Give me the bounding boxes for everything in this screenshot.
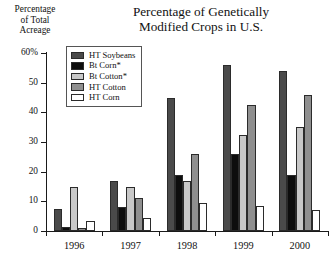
bar <box>143 218 151 231</box>
bar <box>279 71 287 231</box>
bar <box>247 105 255 231</box>
x-axis-tick <box>215 232 216 236</box>
legend-label: HT Soybeans <box>89 51 135 60</box>
legend-swatch-icon <box>71 94 84 102</box>
y-axis-tick-label: 10 <box>29 196 38 205</box>
bar <box>54 209 62 231</box>
legend-item: Bt Cotton* <box>71 71 135 82</box>
x-axis-label-1996: 1996 <box>47 240 101 251</box>
x-axis-tick <box>102 232 103 236</box>
legend-item: HT Cotton <box>71 82 135 93</box>
bar <box>191 154 199 231</box>
x-axis-line <box>46 231 329 232</box>
bar <box>183 181 191 231</box>
legend-item: Bt Corn* <box>71 61 135 72</box>
legend-item: HT Corn <box>71 92 135 103</box>
chart-legend: HT SoybeansBt Corn*Bt Cotton*HT CottonHT… <box>66 46 142 107</box>
x-axis-tick <box>328 232 329 236</box>
chart-title: Percentage of Genetically Modified Crops… <box>86 4 316 34</box>
legend-swatch-icon <box>71 83 84 91</box>
bar <box>126 187 134 232</box>
y-axis-title: Percentage of Total Acreage <box>2 4 68 36</box>
bar <box>110 181 118 231</box>
bar <box>287 175 295 231</box>
bar <box>70 187 78 232</box>
x-axis-tick <box>159 232 160 236</box>
bar <box>118 207 126 231</box>
x-axis-label-1997: 1997 <box>104 240 158 251</box>
y-axis-tick-label: 40 <box>29 107 38 116</box>
y-axis-tick-label: 60% <box>21 48 38 57</box>
bar <box>239 135 247 231</box>
bar <box>62 227 70 231</box>
legend-swatch-icon <box>71 62 84 70</box>
x-axis-label-2000: 2000 <box>273 240 327 251</box>
legend-item: HT Soybeans <box>71 50 135 61</box>
x-axis-tick <box>46 232 47 236</box>
bar <box>256 206 264 231</box>
bar <box>304 95 312 231</box>
bar <box>231 154 239 231</box>
x-axis-label-1999: 1999 <box>216 240 270 251</box>
bar <box>199 203 207 231</box>
bar <box>312 210 320 231</box>
bar <box>296 127 304 231</box>
y-axis-tick-label: 20 <box>29 167 38 176</box>
legend-label: HT Corn <box>89 93 120 102</box>
bar <box>175 175 183 231</box>
bar <box>167 98 175 232</box>
legend-label: Bt Corn* <box>89 61 121 70</box>
bar <box>223 65 231 231</box>
x-axis-label-1998: 1998 <box>160 240 214 251</box>
y-axis-tick-label: 30 <box>29 137 38 146</box>
bar-group-1999 <box>223 53 264 231</box>
legend-swatch-icon <box>71 73 84 81</box>
bar <box>135 198 143 231</box>
chart-figure: Percentage of Total Acreage Percentage o… <box>0 0 334 269</box>
legend-label: Bt Cotton* <box>89 72 127 81</box>
bar <box>86 221 94 231</box>
legend-label: HT Cotton <box>89 83 126 92</box>
bar-group-2000 <box>279 53 320 231</box>
legend-swatch-icon <box>71 52 84 60</box>
bar <box>78 228 86 231</box>
y-axis-tick-label: 50 <box>29 78 38 87</box>
bar-group-1998 <box>167 53 208 231</box>
y-axis-tick-label: 0 <box>33 226 38 235</box>
x-axis-tick <box>272 232 273 236</box>
